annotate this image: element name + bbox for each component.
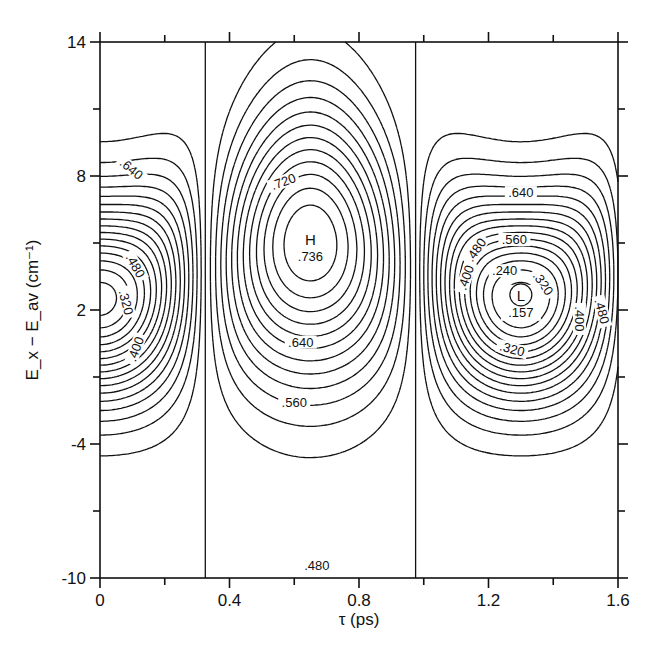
svg-text:.400: .400 <box>124 335 147 364</box>
y-tick-label: -4 <box>71 435 86 454</box>
y-tick-label: 14 <box>67 33 86 52</box>
extremum-marker: L <box>517 287 525 304</box>
contour-figure: 00.40.81.21.6-10-42814 .640.480.320.400.… <box>0 0 659 661</box>
contour-label: .640 <box>285 335 317 350</box>
contour-label: .400 <box>453 260 478 295</box>
contour-label: .320 <box>115 285 138 320</box>
x-tick-label: 1.6 <box>606 591 630 610</box>
x-axis-title: τ (ps) <box>339 610 380 629</box>
x-tick-label: 0.8 <box>347 591 371 610</box>
contour-label: .240 <box>489 263 521 278</box>
y-tick-label: -10 <box>61 569 86 588</box>
x-tick-label: 1.2 <box>477 591 501 610</box>
x-tick-label: 0 <box>95 591 104 610</box>
svg-text:.480: .480 <box>304 558 329 573</box>
svg-text:.640: .640 <box>508 185 533 200</box>
extremum-value: .157 <box>508 305 533 320</box>
svg-text:.560: .560 <box>502 232 527 247</box>
y-tick-label: 2 <box>77 301 86 320</box>
x-tick-label: 0.4 <box>218 591 242 610</box>
contour-label: .560 <box>278 395 310 410</box>
contour-label: .640 <box>505 185 537 200</box>
contour-label: .480 <box>301 558 333 573</box>
contour-label: .640 <box>114 153 148 185</box>
svg-text:.400: .400 <box>572 306 587 331</box>
contour-label: .320 <box>495 338 530 361</box>
extremum-value: .736 <box>298 249 323 264</box>
y-tick-label: 8 <box>77 167 86 186</box>
svg-text:.320: .320 <box>116 288 137 316</box>
svg-text:.640: .640 <box>288 335 313 350</box>
svg-text:.240: .240 <box>492 263 517 278</box>
contour-label: .400 <box>572 303 587 335</box>
svg-text:.400: .400 <box>454 263 477 292</box>
y-axis-title: E_x − E_av (cm⁻¹) <box>23 240 42 381</box>
svg-text:.320: .320 <box>498 339 526 360</box>
contour-label: .560 <box>498 232 530 247</box>
tick-labels: 00.40.81.21.6-10-42814 <box>61 33 629 610</box>
extremum-marker: H <box>305 231 316 248</box>
svg-text:.560: .560 <box>282 395 307 410</box>
